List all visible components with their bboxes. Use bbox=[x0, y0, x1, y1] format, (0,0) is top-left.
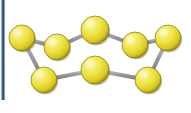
atom-sphere bbox=[81, 16, 110, 46]
atom-sphere bbox=[155, 25, 182, 53]
atom-sphere bbox=[81, 56, 110, 86]
molecule-illustration bbox=[0, 0, 191, 113]
atom-sphere bbox=[135, 67, 162, 95]
atom-body bbox=[122, 32, 148, 58]
atom-body bbox=[81, 16, 109, 44]
atom-body bbox=[155, 25, 181, 51]
atom-sphere bbox=[31, 67, 58, 95]
atom-sphere bbox=[122, 32, 149, 60]
atom-body bbox=[44, 34, 70, 60]
atom-body bbox=[31, 67, 57, 93]
atom-body bbox=[135, 67, 161, 93]
atom-sphere bbox=[44, 34, 71, 62]
atom-body bbox=[81, 56, 109, 84]
atom-body bbox=[9, 25, 35, 51]
atoms-layer bbox=[9, 16, 182, 95]
atom-sphere bbox=[9, 25, 36, 53]
molecular-model-svg bbox=[0, 0, 191, 113]
